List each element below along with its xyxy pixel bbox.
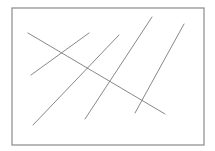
diagram-background: [0, 0, 215, 151]
line-diagram: [0, 0, 215, 151]
